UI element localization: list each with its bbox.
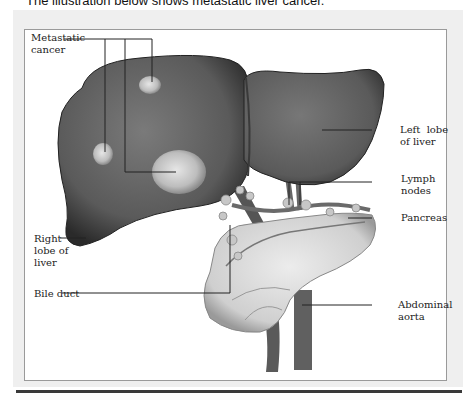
label-bile-duct: Bile duct [34,288,79,300]
tumor [139,76,161,94]
label-abdominal-aorta: Abdominal aorta [398,299,452,323]
label-pancreas: Pancreas [401,212,447,224]
label-left-lobe: Left lobe of liver [400,124,448,148]
label-right-lobe: Right lobe of liver [34,233,68,269]
tumor [93,143,113,165]
label-lymph-nodes: Lymph nodes [401,173,435,197]
label-metastatic-cancer: Metastatic cancer [31,32,85,56]
liver-left-lobe [244,69,384,185]
liver-illustration [0,0,472,406]
